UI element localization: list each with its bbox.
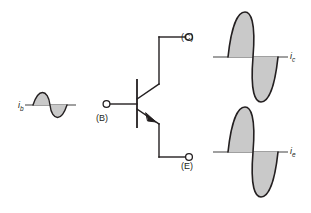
emitter-arrowhead-icon: [146, 113, 156, 122]
figure-canvas: [0, 0, 311, 213]
base-terminal-node[interactable]: [103, 101, 110, 108]
base-current-label: ib: [18, 101, 24, 112]
terminal-label-emitter: (E): [181, 162, 193, 171]
collector-diagonal-wire: [137, 84, 159, 99]
base-current-waveform: [25, 93, 76, 118]
collector-current-subscript: c: [292, 56, 295, 63]
emitter-current-subscript: e: [292, 151, 296, 158]
collector-current-label: ic: [290, 52, 295, 63]
transistor-waveform-figure: ib (B) (C) (E) ic ie: [0, 0, 311, 213]
npn-transistor-symbol: [103, 34, 192, 161]
collector-current-waveform: [213, 12, 288, 102]
terminal-label-base: (B): [96, 114, 108, 123]
emitter-terminal-node[interactable]: [186, 154, 193, 161]
terminal-label-collector: (C): [181, 33, 194, 42]
emitter-current-waveform: [213, 107, 288, 197]
emitter-current-label: ie: [290, 147, 296, 158]
base-current-subscript: b: [20, 105, 24, 112]
